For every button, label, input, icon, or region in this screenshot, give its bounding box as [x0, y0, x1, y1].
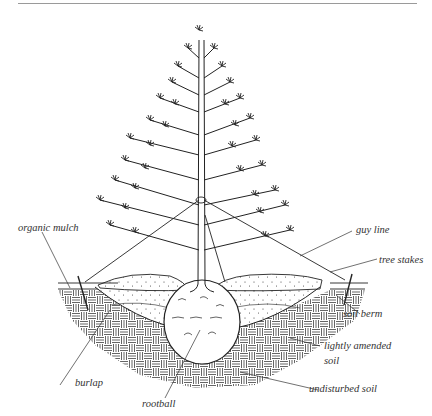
branches: [100, 48, 290, 250]
tree-planting-illustration: [0, 0, 432, 416]
label-lightly-amended-soil-2: soil: [324, 355, 339, 367]
guy-lines: [85, 197, 345, 282]
label-rootball: rootball: [142, 398, 175, 410]
label-tree-stakes: tree stakes: [379, 254, 423, 266]
label-burlap: burlap: [75, 377, 103, 389]
label-guy-line: guy line: [356, 224, 390, 236]
rootball: [164, 280, 240, 364]
needle-tufts: [96, 25, 294, 237]
label-soil-berm: soil berm: [343, 308, 382, 320]
label-undisturbed-soil: undisturbed soil: [309, 383, 377, 395]
label-lightly-amended-soil: lightly amended: [324, 340, 391, 352]
trunk: [190, 40, 214, 292]
label-organic-mulch: organic mulch: [18, 222, 79, 234]
